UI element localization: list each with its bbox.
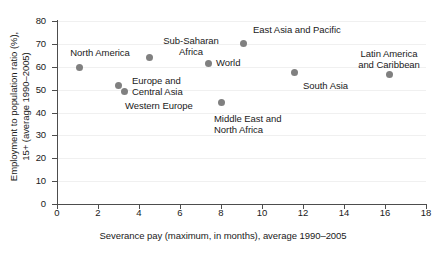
y-tick-80 bbox=[52, 21, 57, 22]
data-point-latin-america-and-caribbean bbox=[386, 71, 393, 78]
data-point-middle-east-and-north-africa bbox=[218, 99, 225, 106]
gridline-y-50 bbox=[58, 90, 426, 91]
y-tick-60 bbox=[52, 67, 57, 68]
x-tick-label-14: 14 bbox=[329, 208, 359, 218]
point-label-middle-east-line1: Middle East and bbox=[214, 113, 281, 125]
y-axis-title-line2: 15+ (average 1990–2005) bbox=[19, 52, 30, 160]
point-label-latin-america-line1: Latin America bbox=[361, 48, 418, 60]
x-tick-label-4: 4 bbox=[124, 208, 154, 218]
x-tick-label-10: 10 bbox=[247, 208, 277, 218]
data-point-south-asia bbox=[291, 69, 298, 76]
point-label-east-asia: East Asia and Pacific bbox=[253, 24, 341, 36]
data-point-north-america bbox=[76, 64, 83, 71]
gridline-y-80 bbox=[58, 21, 426, 22]
y-tick-50 bbox=[52, 90, 57, 91]
x-tick-label-12: 12 bbox=[288, 208, 318, 218]
y-axis-title: Employment to population ratio (%), 15+ … bbox=[8, 9, 31, 205]
data-point-world bbox=[205, 60, 212, 67]
y-tick-30 bbox=[52, 135, 57, 136]
point-label-europe-central-asia-line1: Europe and bbox=[132, 75, 181, 87]
x-tick-label-18: 18 bbox=[411, 208, 441, 218]
point-label-sub-saharan-line2: Africa bbox=[179, 46, 203, 58]
x-axis-line bbox=[57, 204, 427, 205]
data-point-europe-and-central-asia bbox=[115, 82, 122, 89]
x-tick-label-8: 8 bbox=[206, 208, 236, 218]
x-tick-label-0: 0 bbox=[42, 208, 72, 218]
data-point-east-asia-and-pacific bbox=[240, 40, 247, 47]
point-label-sub-saharan-line1: Sub-Saharan bbox=[163, 35, 218, 47]
gridline-y-10 bbox=[58, 181, 426, 182]
x-tick-label-6: 6 bbox=[165, 208, 195, 218]
y-tick-40 bbox=[52, 113, 57, 114]
gridline-y-20 bbox=[58, 158, 426, 159]
x-tick-label-2: 2 bbox=[83, 208, 113, 218]
x-axis-title: Severance pay (maximum, in months), aver… bbox=[0, 230, 446, 241]
y-tick-20 bbox=[52, 158, 57, 159]
point-label-south-asia: South Asia bbox=[303, 80, 348, 92]
y-axis-title-line1: Employment to population ratio (%), bbox=[8, 32, 19, 181]
data-point-sub-saharan-africa bbox=[146, 54, 153, 61]
point-label-middle-east-line2: North Africa bbox=[214, 124, 263, 136]
point-label-western-europe: Western Europe bbox=[125, 100, 193, 112]
scatter-chart: 01020304050607080 024681012141618 North … bbox=[0, 0, 446, 262]
point-label-europe-central-asia-line2: Central Asia bbox=[132, 86, 183, 98]
point-label-world: World bbox=[216, 57, 240, 69]
x-tick-label-16: 16 bbox=[370, 208, 400, 218]
y-tick-70 bbox=[52, 44, 57, 45]
y-tick-10 bbox=[52, 181, 57, 182]
point-label-latin-america-line2: and Caribbean bbox=[358, 59, 420, 71]
data-point-western-europe bbox=[121, 88, 128, 95]
y-axis-line bbox=[57, 20, 58, 205]
point-label-north-america: North America bbox=[70, 47, 130, 59]
